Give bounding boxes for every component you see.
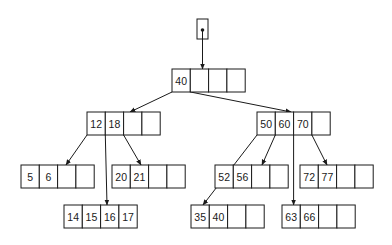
tree-node-l5: 56 [21,165,94,188]
node-key: 20 [115,171,127,183]
tree-node-l63: 6366 [282,205,355,228]
node-key: 77 [322,171,334,183]
node-cell [337,205,355,228]
node-key: 17 [122,211,134,223]
nodes: 4012185060705614151617202135405256636672… [21,19,373,228]
node-key: 15 [86,211,98,223]
node-cell [124,112,142,135]
node-cell [312,112,330,135]
node-key: 70 [297,118,309,130]
node-cell [190,69,208,92]
node-cell [228,205,246,228]
node-key: 56 [237,171,249,183]
b-tree-diagram: 4012185060705614151617202135405256636672… [0,0,392,245]
edge-root-to-n50 [191,92,292,112]
edge-n12-to-l14 [105,135,107,205]
node-key: 12 [90,118,102,130]
node-cell [246,205,264,228]
node-key: 21 [134,171,146,183]
tree-node-l20: 2021 [112,165,185,188]
edge-n50-to-l52 [262,135,275,165]
tree-node-root: 40 [172,69,245,92]
edge-n12-to-l20 [124,135,141,165]
node-cell [58,165,76,188]
node-cell [337,165,355,188]
node-cell [227,69,245,92]
node-key: 16 [104,211,116,223]
node-cell [319,205,337,228]
root-pointer-dot [201,28,205,32]
tree-node-n12: 1218 [87,112,160,135]
node-key: 14 [67,211,79,223]
tree-node-n50: 506070 [257,112,330,135]
node-key: 40 [213,211,225,223]
node-cell [355,165,373,188]
node-key: 40 [175,75,187,87]
edge-n12-to-l5 [66,135,87,165]
node-key: 5 [27,171,33,183]
node-key: 50 [260,118,272,130]
node-cell [167,165,185,188]
edge-n50-to-l72 [312,135,327,165]
node-key: 18 [109,118,121,130]
tree-node-l35: 3540 [191,205,264,228]
node-key: 72 [303,171,315,183]
tree-node-l72: 7277 [300,165,373,188]
node-key: 66 [304,211,316,223]
edge-root-to-n12 [130,92,172,112]
node-cell [209,69,227,92]
node-key: 52 [218,171,230,183]
node-cell [252,165,270,188]
node-key: 63 [285,211,297,223]
tree-node-l52: 5256 [215,165,288,188]
node-cell [142,112,160,135]
node-key: 6 [46,171,52,183]
node-key: 35 [194,211,206,223]
node-cell [270,165,288,188]
node-cell [149,165,167,188]
tree-node-l14: 14151617 [64,205,137,228]
node-key: 60 [279,118,291,130]
node-cell [76,165,94,188]
